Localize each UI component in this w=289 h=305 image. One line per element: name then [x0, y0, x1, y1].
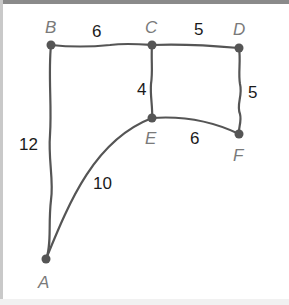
node-A [42, 255, 51, 264]
weight-label-A-E: 10 [93, 174, 112, 193]
edge-B-C [51, 44, 152, 47]
weight-label-C-E: 4 [137, 80, 146, 99]
edge-D-F [239, 48, 241, 134]
graph-diagram: B C D E F A 6 5 4 5 6 12 10 [0, 0, 289, 305]
node-label-F: F [233, 146, 245, 165]
node-label-B: B [45, 18, 56, 37]
node-label-E: E [145, 129, 157, 148]
node-F [235, 130, 244, 139]
node-label-C: C [145, 18, 158, 37]
edge-C-E [151, 45, 152, 118]
node-D [235, 44, 244, 53]
node-E [148, 114, 157, 123]
weight-label-D-F: 5 [248, 83, 257, 102]
edge-C-D [152, 45, 239, 48]
weight-label-B-A: 12 [19, 135, 38, 154]
weight-label-C-D: 5 [194, 20, 203, 39]
node-label-D: D [233, 20, 245, 39]
weight-label-B-C: 6 [92, 22, 101, 41]
node-B [47, 41, 56, 50]
edge-B-A [46, 45, 52, 259]
node-C [148, 41, 157, 50]
node-label-A: A [37, 273, 49, 292]
weight-label-E-F: 6 [190, 129, 199, 148]
